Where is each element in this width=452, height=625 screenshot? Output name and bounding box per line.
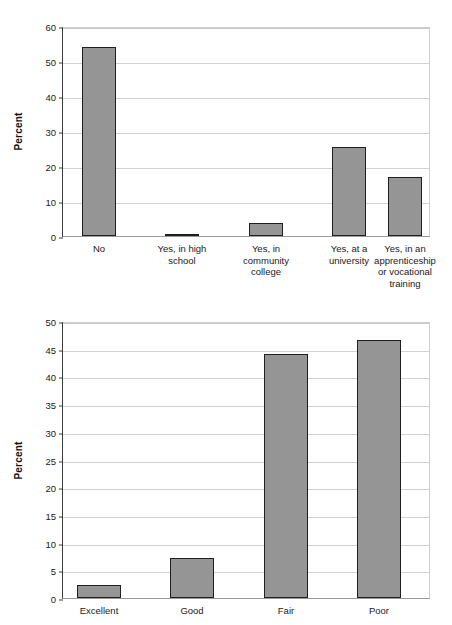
y-tick-label: 50 xyxy=(45,318,63,328)
gridline xyxy=(63,98,429,99)
chart-bottom: Percent 05101520253035404550ExcellentGoo… xyxy=(0,305,452,625)
y-tick-label: 10 xyxy=(45,198,63,208)
gridline xyxy=(63,63,429,64)
bar xyxy=(388,177,422,237)
gridline xyxy=(63,168,429,169)
y-tick-label: 40 xyxy=(45,93,63,103)
bar xyxy=(332,147,366,236)
plot-area-top: 0102030405060NoYes, in high schoolYes, i… xyxy=(62,27,430,237)
y-tick-label: 40 xyxy=(45,374,63,384)
y-tick-label: 20 xyxy=(45,484,63,494)
chart-top: Percent 0102030405060NoYes, in high scho… xyxy=(0,0,452,310)
y-tick-label: 15 xyxy=(45,512,63,522)
y-tick-label: 50 xyxy=(45,58,63,68)
y-tick-label: 30 xyxy=(45,128,63,138)
x-axis-label: Yes, in high school xyxy=(158,243,207,266)
y-tick-label: 45 xyxy=(45,346,63,356)
x-axis-label: Poor xyxy=(369,605,389,617)
bar xyxy=(82,47,116,236)
y-tick-label: 60 xyxy=(45,23,63,33)
gridline xyxy=(63,203,429,204)
x-axis-label: Excellent xyxy=(80,605,119,617)
y-tick-label: 30 xyxy=(45,429,63,439)
x-axis-label: No xyxy=(93,243,105,255)
y-tick-label: 0 xyxy=(51,595,63,605)
x-axis-label: Good xyxy=(180,605,203,617)
plot-area-bottom: 05101520253035404550ExcellentGoodFairPoo… xyxy=(62,322,430,599)
x-axis-label: Yes, in community college xyxy=(243,243,289,278)
x-axis-label: Yes, at a university xyxy=(329,243,369,266)
y-tick-label: 10 xyxy=(45,540,63,550)
bar xyxy=(357,340,401,598)
bar xyxy=(170,558,214,598)
y-tick-label: 35 xyxy=(45,401,63,411)
gridline xyxy=(63,28,429,29)
y-tick-label: 25 xyxy=(45,457,63,467)
bar xyxy=(165,234,199,236)
x-axis-label: Fair xyxy=(278,605,294,617)
y-tick-label: 20 xyxy=(45,163,63,173)
y-axis-label-bottom: Percent xyxy=(13,430,24,490)
bar xyxy=(249,223,283,236)
y-tick-label: 0 xyxy=(51,233,63,243)
x-axis-label: Yes, in an apprenticeship or vocational … xyxy=(374,243,436,289)
bar xyxy=(77,585,121,598)
y-tick-label: 5 xyxy=(51,568,63,578)
gridline xyxy=(63,133,429,134)
bar xyxy=(264,354,308,598)
y-axis-label-top: Percent xyxy=(13,102,24,162)
gridline xyxy=(63,323,429,324)
